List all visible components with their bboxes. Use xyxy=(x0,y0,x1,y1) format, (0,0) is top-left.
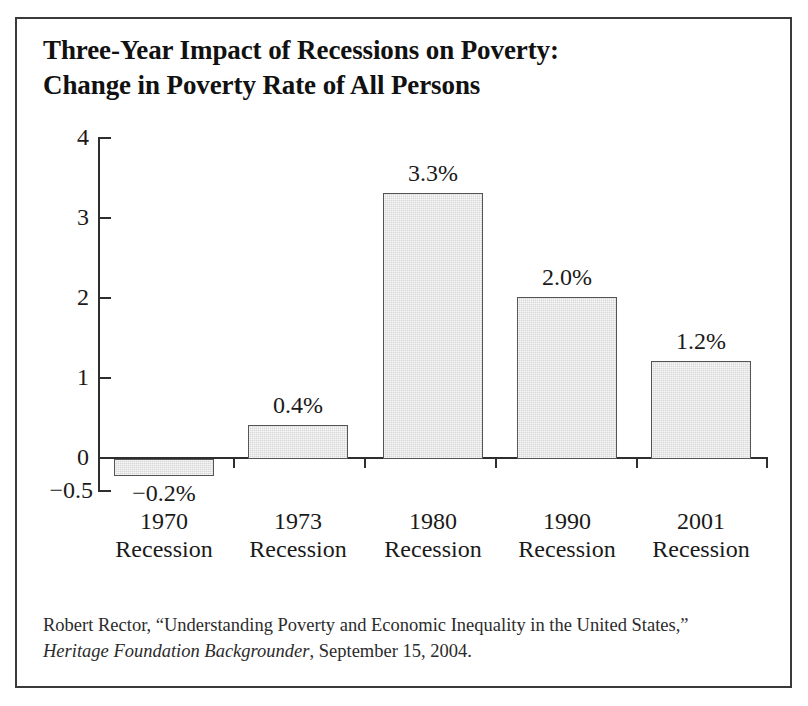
y-tick-3 xyxy=(98,217,111,219)
source-note-line-1: Robert Rector, “Understanding Poverty an… xyxy=(43,613,773,639)
x-axis-label-1973: 1973 Recession xyxy=(236,507,360,564)
x-tick-5 xyxy=(766,457,768,468)
y-tick-4 xyxy=(98,137,111,139)
bar-value-1980: 3.3% xyxy=(383,161,483,185)
source-note-publication: Heritage Foundation Backgrounder xyxy=(43,641,310,661)
y-axis-label-0: 0 xyxy=(29,445,89,469)
bar-1980[interactable] xyxy=(383,193,483,459)
source-note: Robert Rector, “Understanding Poverty an… xyxy=(43,613,773,665)
x-axis-label-1970-word: Recession xyxy=(102,535,226,563)
bar-chart-plot: 4 3 2 1 0 −0.5 −0.2% 0.4% 3.3% 2.0% 1.2% xyxy=(17,19,794,579)
bar-value-1990: 2.0% xyxy=(517,265,617,289)
x-axis-label-1980: 1980 Recession xyxy=(371,507,495,564)
x-axis-label-1990-word: Recession xyxy=(505,535,629,563)
bar-1970[interactable] xyxy=(114,459,214,476)
x-tick-3 xyxy=(495,457,497,468)
x-axis-label-2001: 2001 Recession xyxy=(639,507,763,564)
bar-value-1973: 0.4% xyxy=(248,393,348,417)
x-tick-2 xyxy=(364,457,366,468)
source-note-line-2: Heritage Foundation Backgrounder, Septem… xyxy=(43,639,773,665)
bar-1973[interactable] xyxy=(248,425,348,459)
bar-value-1970: −0.2% xyxy=(114,481,214,505)
x-axis-label-2001-word: Recession xyxy=(639,535,763,563)
y-tick-neg-0-5 xyxy=(98,490,111,492)
x-axis-label-1970: 1970 Recession xyxy=(102,507,226,564)
x-axis-label-1980-word: Recession xyxy=(371,535,495,563)
x-axis-label-1973-word: Recession xyxy=(236,535,360,563)
x-axis-label-1970-year: 1970 xyxy=(102,507,226,535)
y-axis-line xyxy=(98,137,100,490)
x-axis-label-1990: 1990 Recession xyxy=(505,507,629,564)
bar-1990[interactable] xyxy=(517,297,617,459)
y-axis-label-4: 4 xyxy=(29,125,89,149)
bar-value-2001: 1.2% xyxy=(651,329,751,353)
y-axis-label-3: 3 xyxy=(29,205,89,229)
y-tick-2 xyxy=(98,297,111,299)
figure-frame: Three-Year Impact of Recessions on Pover… xyxy=(15,17,792,688)
x-axis-label-1980-year: 1980 xyxy=(371,507,495,535)
x-tick-1 xyxy=(233,457,235,468)
x-axis-label-1973-year: 1973 xyxy=(236,507,360,535)
y-axis-label-1: 1 xyxy=(29,365,89,389)
y-tick-1 xyxy=(98,377,111,379)
x-axis-label-2001-year: 2001 xyxy=(639,507,763,535)
source-note-date: , September 15, 2004. xyxy=(310,641,472,661)
y-axis-label-2: 2 xyxy=(29,285,89,309)
y-axis-labels: 4 3 2 1 0 −0.5 xyxy=(25,19,89,579)
x-axis-label-1990-year: 1990 xyxy=(505,507,629,535)
bar-2001[interactable] xyxy=(651,361,751,459)
x-tick-4 xyxy=(636,457,638,468)
y-axis-label-neg-0-5: −0.5 xyxy=(29,478,93,502)
